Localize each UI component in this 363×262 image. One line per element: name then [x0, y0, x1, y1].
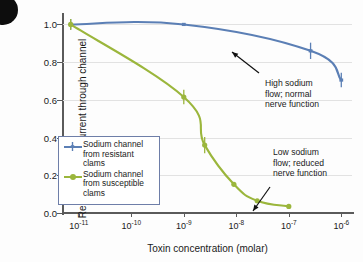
y-tick: [57, 213, 63, 214]
high-sodium-annotation: High sodium flow; normal nerve function: [265, 78, 319, 110]
series-line-0: [71, 22, 342, 80]
corner-bullet-icon: [0, 0, 18, 25]
x-tick-label: 10-6: [333, 219, 349, 231]
legend-marker-resistant-icon: [63, 141, 83, 152]
x-tick: [289, 213, 290, 217]
legend-item-susceptible[interactable]: Sodium channel from susceptible clams: [63, 170, 155, 199]
y-tick-label: 0.6: [44, 94, 57, 105]
y-tick-label: 0.8: [44, 57, 57, 68]
data-point: [202, 143, 207, 148]
data-point: [339, 78, 343, 81]
data-point: [286, 204, 291, 209]
x-tick: [184, 213, 185, 217]
data-point: [68, 22, 73, 27]
y-tick-label: 1.0: [44, 19, 57, 30]
legend: Sodium channel from resistant clams Sodi…: [58, 136, 160, 205]
y-tick-label: 0.0: [44, 208, 57, 219]
x-tick: [236, 213, 237, 217]
data-point: [231, 182, 236, 187]
legend-label-resistant: Sodium channel from resistant clams: [83, 140, 143, 169]
annotation-arrow-head: [253, 205, 259, 211]
data-point: [182, 23, 186, 26]
x-tick-label: 10-9: [176, 219, 192, 231]
x-tick: [341, 213, 342, 217]
x-tick-label: 10-7: [281, 219, 297, 231]
x-tick-label: 10-10: [122, 219, 141, 231]
data-point: [309, 49, 313, 52]
x-tick: [131, 213, 132, 217]
x-axis-title: Toxin concentration (molar): [63, 243, 352, 254]
y-tick-label: 0.2: [44, 170, 57, 181]
low-sodium-annotation: Low sodium flow; reduced nerve function: [273, 147, 327, 179]
legend-item-resistant[interactable]: Sodium channel from resistant clams: [63, 140, 155, 169]
x-tick-label: 10-8: [228, 219, 244, 231]
legend-marker-susceptible-icon: [63, 171, 83, 182]
legend-label-susceptible: Sodium channel from susceptible clams: [83, 170, 144, 199]
data-point: [181, 94, 186, 99]
figure-root: 1.00.80.60.40.20.0 10-1110-1010-910-810-…: [0, 0, 363, 262]
y-tick-label: 0.4: [44, 132, 57, 143]
